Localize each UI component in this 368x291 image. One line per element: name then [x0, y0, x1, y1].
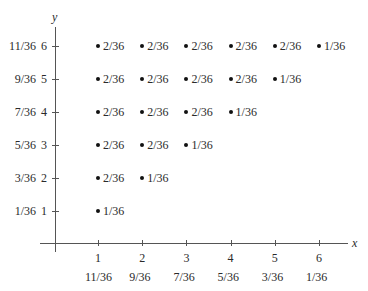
- point-probability-label: 1/36: [147, 172, 168, 184]
- x-tick-mark: [231, 240, 232, 246]
- data-point: [229, 44, 233, 48]
- point-probability-label: 2/36: [236, 40, 257, 52]
- point-probability-label: 2/36: [236, 73, 257, 85]
- y-axis-label: y: [52, 11, 57, 23]
- data-point: [140, 77, 144, 81]
- data-point: [229, 77, 233, 81]
- data-point: [229, 110, 233, 114]
- x-tick-mark: [98, 240, 99, 246]
- data-point: [96, 143, 100, 147]
- x-tick-label: 1: [95, 252, 101, 264]
- y-marginal-label: 9/36: [15, 73, 36, 85]
- x-marginal-label: 3/36: [262, 271, 283, 283]
- x-tick-label: 2: [139, 252, 145, 264]
- y-tick-mark: [52, 145, 59, 146]
- x-tick-mark: [275, 240, 276, 246]
- y-marginal-label: 7/36: [15, 106, 36, 118]
- point-probability-label: 2/36: [103, 172, 124, 184]
- y-tick-mark: [52, 178, 59, 179]
- data-point: [96, 209, 100, 213]
- data-point: [184, 143, 188, 147]
- y-tick-mark: [52, 211, 59, 212]
- data-point: [273, 77, 277, 81]
- x-tick-mark: [186, 240, 187, 246]
- x-tick-label: 4: [228, 252, 234, 264]
- data-point: [273, 44, 277, 48]
- x-marginal-label: 9/36: [129, 271, 150, 283]
- y-tick-label: 1: [41, 205, 47, 217]
- y-tick-label: 3: [41, 139, 47, 151]
- data-point: [96, 77, 100, 81]
- y-tick-mark: [52, 46, 59, 47]
- point-probability-label: 2/36: [191, 106, 212, 118]
- y-tick-label: 6: [41, 40, 47, 52]
- point-probability-label: 1/36: [191, 139, 212, 151]
- data-point: [184, 77, 188, 81]
- x-tick-label: 3: [183, 252, 189, 264]
- x-axis-label: x: [352, 237, 357, 249]
- x-marginal-label: 1/36: [306, 271, 327, 283]
- y-marginal-label: 5/36: [15, 139, 36, 151]
- point-probability-label: 1/36: [236, 106, 257, 118]
- point-probability-label: 1/36: [280, 73, 301, 85]
- data-point: [96, 176, 100, 180]
- point-probability-label: 2/36: [147, 73, 168, 85]
- joint-distribution-chart: y x 111/3629/3637/3645/3653/3661/3611/36…: [0, 0, 368, 291]
- y-marginal-label: 11/36: [9, 40, 36, 52]
- point-probability-label: 1/36: [324, 40, 345, 52]
- point-probability-label: 2/36: [280, 40, 301, 52]
- y-tick-label: 2: [41, 172, 47, 184]
- y-tick-label: 4: [41, 106, 47, 118]
- y-tick-mark: [52, 112, 59, 113]
- point-probability-label: 2/36: [147, 40, 168, 52]
- y-marginal-label: 1/36: [15, 205, 36, 217]
- data-point: [96, 110, 100, 114]
- data-point: [140, 44, 144, 48]
- data-point: [184, 44, 188, 48]
- y-tick-label: 5: [41, 73, 47, 85]
- x-marginal-label: 7/36: [173, 271, 194, 283]
- point-probability-label: 2/36: [191, 73, 212, 85]
- y-tick-mark: [52, 79, 59, 80]
- point-probability-label: 2/36: [103, 40, 124, 52]
- point-probability-label: 2/36: [191, 40, 212, 52]
- x-axis: [40, 243, 348, 244]
- x-tick-label: 5: [272, 252, 278, 264]
- x-marginal-label: 11/36: [85, 271, 112, 283]
- point-probability-label: 2/36: [103, 106, 124, 118]
- data-point: [184, 110, 188, 114]
- x-marginal-label: 5/36: [218, 271, 239, 283]
- data-point: [140, 143, 144, 147]
- data-point: [317, 44, 321, 48]
- x-tick-label: 6: [316, 252, 322, 264]
- point-probability-label: 2/36: [147, 139, 168, 151]
- x-tick-mark: [319, 240, 320, 246]
- data-point: [96, 44, 100, 48]
- point-probability-label: 1/36: [103, 205, 124, 217]
- x-tick-mark: [142, 240, 143, 246]
- y-axis: [55, 27, 56, 252]
- data-point: [140, 176, 144, 180]
- point-probability-label: 2/36: [103, 73, 124, 85]
- data-point: [140, 110, 144, 114]
- y-marginal-label: 3/36: [15, 172, 36, 184]
- point-probability-label: 2/36: [147, 106, 168, 118]
- point-probability-label: 2/36: [103, 139, 124, 151]
